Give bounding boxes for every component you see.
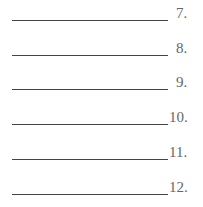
blank-line <box>12 159 168 160</box>
answer-row: 12. <box>0 176 203 196</box>
item-number: 11. <box>169 145 187 160</box>
answer-row: 9. <box>0 71 203 91</box>
blank-line <box>12 194 168 195</box>
answer-row: 8. <box>0 37 203 57</box>
answer-row: 11. <box>0 141 203 161</box>
answer-row: 7. <box>0 2 203 22</box>
blank-line <box>12 55 168 56</box>
item-number: 7. <box>176 6 187 21</box>
answer-row: 10. <box>0 106 203 126</box>
item-number: 8. <box>176 41 187 56</box>
blank-line <box>12 89 168 90</box>
item-number: 12. <box>169 180 188 195</box>
item-number: 9. <box>176 75 187 90</box>
item-number: 10. <box>169 110 188 125</box>
blank-line <box>12 20 168 21</box>
blank-line <box>12 124 168 125</box>
